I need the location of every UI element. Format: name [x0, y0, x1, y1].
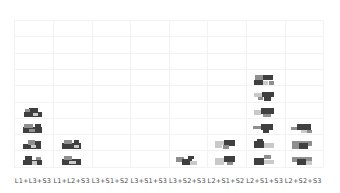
gridline-horizontal: [14, 69, 323, 70]
gridline-vertical: [207, 20, 208, 167]
piece-block: [29, 129, 35, 132]
gridline-vertical: [169, 20, 170, 167]
piece-block: [264, 160, 274, 164]
config-thumbnail: [60, 139, 84, 150]
category-label: L1+L3+S3: [11, 177, 55, 185]
config-thumbnail: [253, 123, 277, 134]
config-thumbnail: [175, 155, 199, 166]
gridline-horizontal: [14, 53, 323, 54]
config-thumbnail: [291, 155, 315, 166]
piece-block: [190, 161, 197, 165]
gridline-horizontal: [14, 118, 323, 119]
config-thumbnail: [214, 139, 238, 150]
config-thumbnail: [291, 123, 315, 134]
piece-block: [254, 158, 264, 165]
piece-block: [25, 109, 30, 112]
gridline-horizontal: [14, 85, 323, 86]
gridline-vertical: [285, 20, 286, 167]
config-thumbnail: [253, 155, 277, 166]
category-label: L3+S2+S3: [165, 177, 209, 185]
config-thumbnail: [253, 91, 277, 102]
config-thumbnail: [253, 75, 277, 86]
config-thumbnail: [60, 155, 84, 166]
config-thumbnail: [291, 139, 315, 150]
configuration-count-chart: L1+L3+S3L1+L2+S3L3+S1+S2L3+S1+S3L3+S2+S3…: [0, 0, 340, 193]
config-thumbnail: [214, 155, 238, 166]
piece-block: [64, 140, 72, 144]
piece-block: [215, 158, 224, 165]
piece-block: [297, 159, 306, 165]
category-label: L3+S1+S2: [88, 177, 132, 185]
piece-block: [69, 161, 76, 164]
gridline-horizontal: [14, 134, 323, 135]
piece-block: [264, 143, 274, 148]
piece-block: [264, 155, 271, 159]
piece-block: [227, 162, 233, 165]
piece-block: [263, 75, 273, 80]
piece-block: [74, 140, 79, 143]
piece-block: [263, 81, 268, 85]
gridline-horizontal: [14, 167, 323, 168]
config-thumbnail: [253, 107, 277, 118]
piece-block: [258, 97, 263, 100]
gridline-vertical: [130, 20, 131, 167]
piece-block: [32, 161, 37, 165]
piece-block: [269, 81, 274, 85]
piece-block: [264, 97, 271, 101]
piece-block: [292, 145, 299, 149]
category-label: L2+S1+S3: [243, 177, 287, 185]
gridline-vertical: [14, 20, 15, 167]
config-thumbnail: [21, 155, 45, 166]
config-thumbnail: [253, 139, 277, 150]
piece-block: [254, 141, 264, 148]
config-thumbnail: [21, 139, 45, 150]
gridline-vertical: [323, 20, 324, 167]
piece-block: [257, 139, 263, 142]
config-thumbnail: [21, 123, 45, 134]
piece-block: [307, 130, 312, 133]
piece-block: [254, 110, 261, 115]
gridline-vertical: [246, 20, 247, 167]
piece-block: [35, 124, 41, 128]
piece-block: [25, 156, 32, 160]
piece-block: [24, 124, 33, 128]
gridline-vertical: [53, 20, 54, 167]
piece-block: [263, 130, 269, 133]
piece-block: [31, 145, 36, 148]
category-label: L2+S1+S2: [204, 177, 248, 185]
piece-block: [74, 145, 79, 148]
piece-block: [253, 126, 261, 129]
category-label: L2+S2+S3: [281, 177, 325, 185]
gridline-horizontal: [14, 20, 323, 21]
piece-block: [188, 156, 194, 159]
piece-block: [299, 143, 308, 149]
piece-block: [36, 157, 41, 160]
gridline-horizontal: [14, 36, 323, 37]
piece-block: [64, 156, 72, 160]
gridline-vertical: [92, 20, 93, 167]
gridline-horizontal: [14, 102, 323, 103]
category-label: L1+L2+S3: [50, 177, 94, 185]
piece-block: [263, 114, 271, 117]
piece-block: [254, 80, 263, 85]
piece-block: [306, 161, 312, 165]
category-label: L3+S1+S3: [127, 177, 171, 185]
piece-block: [215, 145, 222, 148]
gridline-horizontal: [14, 150, 323, 151]
piece-block: [33, 113, 38, 116]
config-thumbnail: [21, 107, 45, 118]
piece-block: [223, 145, 229, 149]
